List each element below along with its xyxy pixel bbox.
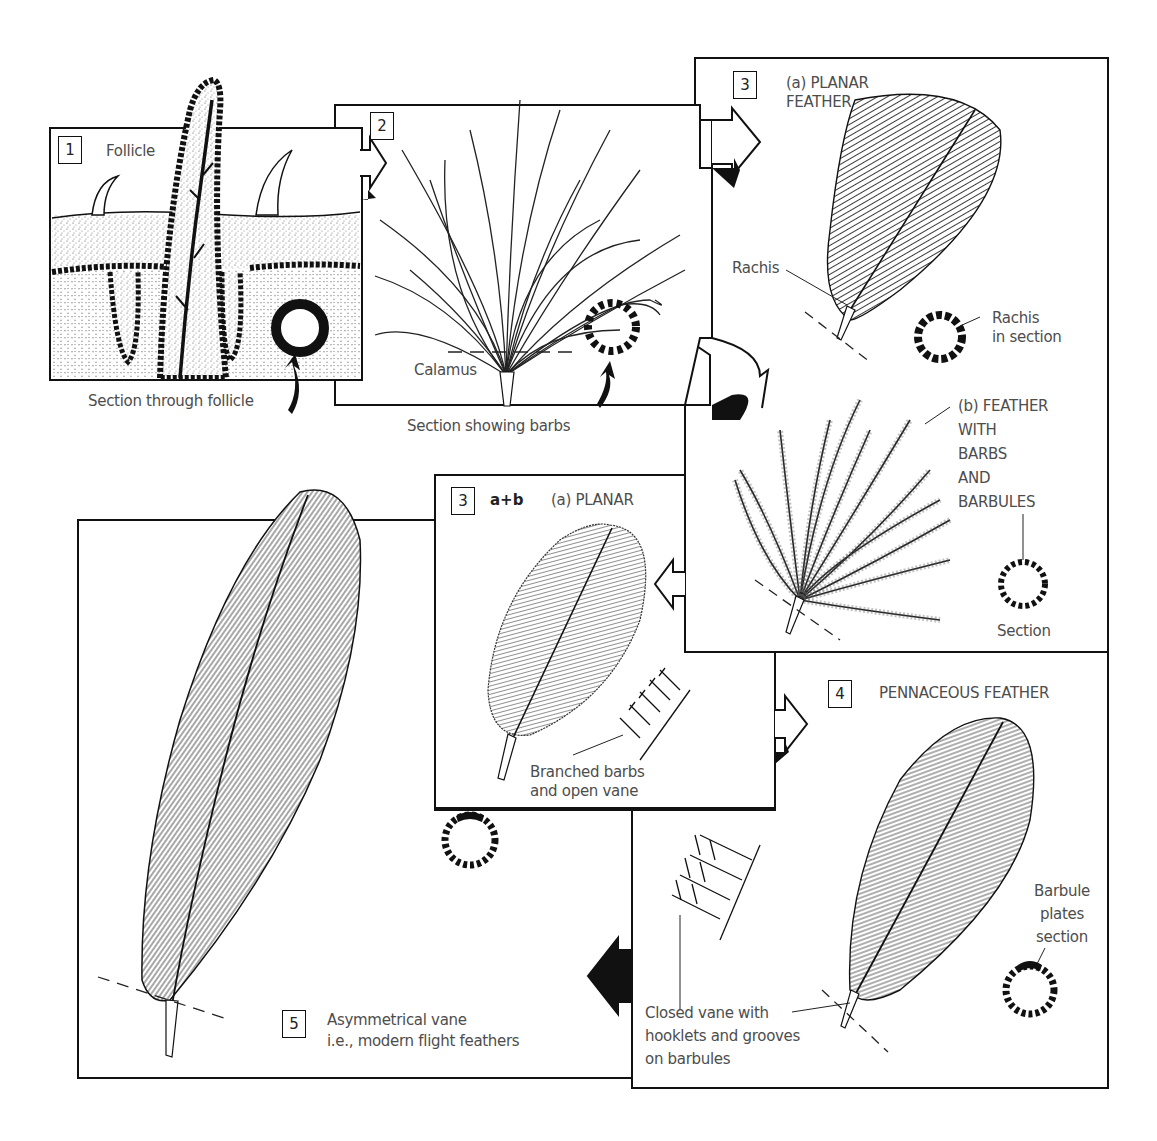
closed-vane-label: Closed vane with hooklets and grooves on…: [645, 1002, 800, 1071]
rachis-section-label: Rachis in section: [992, 309, 1061, 347]
panel-1-number: 1: [58, 136, 82, 164]
feather-evolution-diagram: [0, 0, 1157, 1141]
panel-1-title: Follicle: [106, 142, 155, 161]
panel-3ab-number: 3: [451, 487, 475, 515]
follicle-section-label: Section through follicle: [88, 392, 254, 411]
panel-3a-title: (a) PLANAR FEATHER: [786, 74, 869, 112]
panel-5-number: 5: [282, 1010, 306, 1038]
panel-2-frame: [335, 105, 712, 405]
panel-3b-title: (b) FEATHER WITH BARBS AND BARBULES: [958, 394, 1048, 514]
barbs-section-label: Section showing barbs: [407, 417, 570, 436]
rachis-label: Rachis: [732, 259, 779, 278]
panel-4-number: 4: [828, 680, 852, 708]
panel-3-number: 3: [733, 71, 757, 99]
panel-2-number: 2: [370, 112, 394, 140]
panel-3ab-title: (a) PLANAR: [551, 491, 634, 510]
panel-5-title: Asymmetrical vane i.e., modern flight fe…: [327, 1010, 519, 1052]
panel-3ab-suffix: a+b: [490, 491, 523, 509]
follicle-section-ring: [276, 304, 324, 352]
barbules-section-label: Section: [997, 622, 1051, 641]
barbule-plates-label: Barbule plates section: [1034, 880, 1090, 949]
calamus-label: Calamus: [414, 361, 477, 380]
branched-barbs-label: Branched barbs and open vane: [530, 763, 644, 801]
panel-4-title: PENNACEOUS FEATHER: [879, 684, 1049, 703]
